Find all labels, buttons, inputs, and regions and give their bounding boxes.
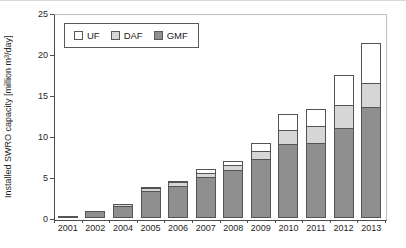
- bar-segment-gmf: [58, 216, 78, 218]
- bar-segment-gmf: [278, 144, 298, 218]
- bar-2006: [168, 181, 188, 218]
- x-category-label: 2004: [109, 223, 137, 233]
- legend-swatch-uf: [74, 31, 83, 40]
- bar-segment-gmf: [306, 143, 326, 218]
- bar-segment-gmf: [251, 159, 271, 218]
- bar-segment-gmf: [113, 206, 133, 218]
- bar-2011: [306, 109, 326, 219]
- bar-segment-daf: [278, 130, 298, 146]
- bar-2007: [196, 169, 216, 218]
- y-tick-label: 10: [20, 132, 48, 142]
- y-tick-label: 0: [20, 214, 48, 224]
- x-category-label: 2007: [192, 223, 220, 233]
- bar-2004: [113, 204, 133, 218]
- legend-label: UF: [87, 30, 100, 41]
- bar-2001: [58, 216, 78, 218]
- bar-2009: [251, 143, 271, 218]
- legend: UFDAFGMF: [64, 23, 199, 48]
- x-category-label: 2008: [220, 223, 248, 233]
- bar-2010: [278, 114, 298, 218]
- bar-segment-uf: [278, 114, 298, 130]
- legend-label: GMF: [167, 30, 188, 41]
- bar-segment-gmf: [334, 128, 354, 218]
- bar-segment-uf: [334, 75, 354, 106]
- bar-2013: [361, 43, 381, 218]
- y-tick-label: 15: [20, 91, 48, 101]
- bar-segment-uf: [306, 109, 326, 127]
- legend-item-gmf: GMF: [154, 30, 188, 41]
- swro-capacity-chart: Installed SWRO capacity [million m³/day]…: [0, 0, 406, 248]
- bar-2012: [334, 75, 354, 218]
- y-axis-title: Installed SWRO capacity [million m³/day]: [3, 14, 15, 219]
- y-tick-label: 25: [20, 9, 48, 19]
- bar-segment-daf: [361, 83, 381, 108]
- legend-swatch-daf: [111, 31, 120, 40]
- y-tick-label: 20: [20, 50, 48, 60]
- bar-segment-gmf: [168, 186, 188, 218]
- x-category-label: 2001: [54, 223, 82, 233]
- bar-2002: [85, 211, 105, 218]
- x-category-label: 2009: [247, 223, 275, 233]
- bar-segment-gmf: [361, 107, 381, 218]
- legend-item-daf: DAF: [111, 30, 143, 41]
- x-category-label: 2013: [357, 223, 385, 233]
- bar-segment-daf: [306, 126, 326, 144]
- y-tick-label: 5: [20, 173, 48, 183]
- x-category-label: 2012: [330, 223, 358, 233]
- legend-item-uf: UF: [74, 30, 100, 41]
- bar-segment-gmf: [141, 191, 161, 218]
- legend-swatch-gmf: [154, 31, 163, 40]
- bar-segment-daf: [334, 105, 354, 129]
- legend-label: DAF: [124, 30, 143, 41]
- bar-segment-uf: [361, 43, 381, 84]
- x-category-label: 2010: [275, 223, 303, 233]
- x-category-label: 2006: [164, 223, 192, 233]
- bar-segment-gmf: [223, 170, 243, 218]
- x-category-label: 2002: [82, 223, 110, 233]
- bar-2005: [141, 187, 161, 218]
- bar-segment-gmf: [85, 211, 105, 218]
- x-category-label: 2011: [302, 223, 330, 233]
- x-category-label: 2005: [137, 223, 165, 233]
- bar-2008: [223, 161, 243, 218]
- x-tick-mark: [385, 220, 386, 223]
- bar-segment-gmf: [196, 177, 216, 218]
